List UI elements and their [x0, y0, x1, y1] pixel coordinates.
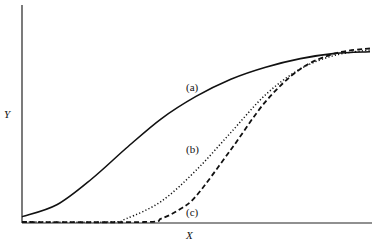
curve-b-label: (b): [186, 143, 199, 155]
curve-a-solid: [22, 52, 370, 217]
curve-c-label: (c): [186, 206, 198, 218]
curve-b-dotted: [22, 50, 370, 222]
y-axis-label: Y: [4, 108, 10, 120]
curve-a-label: (a): [186, 81, 198, 93]
curve-c-dashed: [22, 48, 370, 222]
x-axis-label: X: [186, 229, 193, 241]
